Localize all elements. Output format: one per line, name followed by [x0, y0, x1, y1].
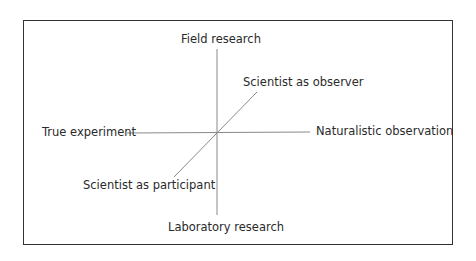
scientist-as-participant-label: Scientist as participant [83, 180, 215, 192]
laboratory-research-label: Laboratory research [168, 222, 284, 234]
naturalistic-observation-label: Naturalistic observation [316, 126, 453, 138]
true-experiment-label: True experiment [42, 127, 136, 139]
diagonal-axis-line [174, 92, 257, 177]
field-research-label: Field research [181, 34, 261, 46]
horizontal-axis-line [127, 132, 310, 133]
scientist-as-observer-label: Scientist as observer [243, 77, 363, 89]
